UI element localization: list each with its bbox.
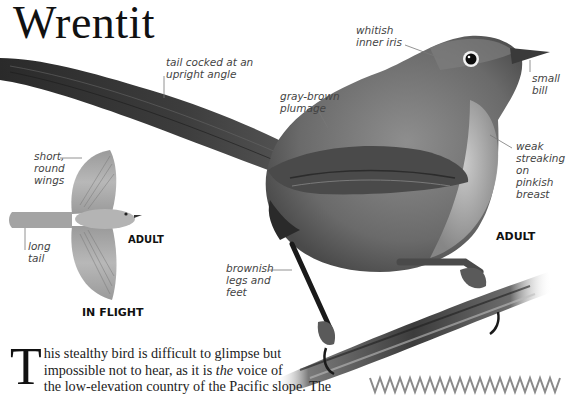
flight-caption: IN FLIGHT: [82, 306, 143, 319]
species-description: T his stealthy bird is difficult to glim…: [10, 345, 300, 395]
annotation-plumage: gray-brown plumage: [280, 90, 340, 114]
branch: [275, 268, 552, 392]
wrentit-illustration: [0, 0, 568, 396]
main-age-label: ADULT: [496, 230, 535, 243]
annotation-bill: small bill: [532, 72, 560, 96]
drop-cap: T: [10, 347, 42, 387]
flight-bird: [9, 150, 142, 300]
main-bird-body: [266, 36, 523, 272]
annotation-tail: tail cocked at an upright angle: [166, 56, 253, 80]
annotation-breast: weak streaking on pinkish breast: [516, 140, 568, 200]
annotation-legs: brownish legs and feet: [226, 262, 274, 298]
annotation-wings: short, round wings: [34, 150, 65, 186]
annotation-iris: whitish inner iris: [356, 24, 402, 48]
flight-age-label: ADULT: [128, 234, 164, 245]
zigzag-ornament: [370, 378, 560, 392]
annotation-long-tail: long tail: [28, 240, 51, 264]
eye-pupil: [466, 54, 477, 65]
